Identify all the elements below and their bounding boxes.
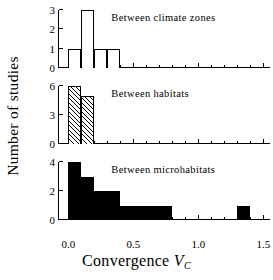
x-minor-tick <box>211 217 212 220</box>
x-minor-tick <box>172 65 173 68</box>
x-major-tick <box>68 139 69 144</box>
x-minor-tick <box>185 65 186 68</box>
x-minor-tick <box>250 65 251 68</box>
y-tick-label: 2 <box>50 24 56 35</box>
x-major-tick <box>198 63 199 68</box>
y-axis-title-text: Number of studies <box>4 56 22 176</box>
x-minor-tick <box>185 141 186 144</box>
x-minor-tick <box>224 141 225 144</box>
panel-habitats: Between habitats 036 <box>46 86 270 154</box>
x-minor-tick <box>94 141 95 144</box>
y-tick-label: 1 <box>50 43 56 54</box>
x-minor-tick <box>159 65 160 68</box>
x-major-tick <box>133 215 134 220</box>
panel-caption: Between habitats <box>111 88 189 99</box>
x-minor-tick <box>172 141 173 144</box>
x-minor-tick <box>250 217 251 220</box>
x-tick-label: 0.5 <box>127 238 141 250</box>
x-minor-tick <box>237 141 238 144</box>
histogram-figure: Number of studies Between climate zones … <box>0 0 273 280</box>
panel-caption: Between microhabitats <box>111 164 215 175</box>
x-major-tick <box>263 63 264 68</box>
x-minor-tick <box>146 217 147 220</box>
x-minor-tick <box>94 217 95 220</box>
y-tick-label: 0 <box>50 215 56 226</box>
y-tick <box>59 28 63 29</box>
x-minor-tick <box>107 65 108 68</box>
histogram-bar <box>68 86 81 144</box>
x-major-tick <box>198 139 199 144</box>
x-minor-tick <box>120 65 121 68</box>
x-minor-tick <box>120 141 121 144</box>
x-minor-tick <box>211 141 212 144</box>
x-minor-tick <box>81 217 82 220</box>
x-axis-subscript: C <box>184 260 191 271</box>
x-minor-tick <box>107 217 108 220</box>
histogram-bar <box>81 177 94 221</box>
histogram-bar <box>94 191 120 220</box>
y-tick-label: 2 <box>50 186 56 197</box>
y-tick-label: 3 <box>50 5 56 16</box>
histogram-bar <box>81 10 94 68</box>
x-major-tick <box>68 63 69 68</box>
x-minor-tick <box>172 217 173 220</box>
y-tick <box>59 114 63 115</box>
x-tick-label: 0.0 <box>62 238 76 250</box>
x-minor-tick <box>185 217 186 220</box>
x-minor-tick <box>81 141 82 144</box>
x-minor-tick <box>237 65 238 68</box>
y-tick-label: 6 <box>50 81 56 92</box>
panel-microhabitats: Between microhabitats 024 <box>46 162 270 230</box>
y-tick-label: 4 <box>50 157 56 168</box>
histogram-bar <box>81 96 94 144</box>
panel-climate-zones: Between climate zones 0123 <box>46 10 270 78</box>
y-tick-label: 0 <box>50 63 56 74</box>
x-minor-tick <box>120 217 121 220</box>
x-tick-label: 1.5 <box>257 238 271 250</box>
y-tick-label: 3 <box>50 110 56 121</box>
x-axis-title: Convergence VC <box>0 252 273 271</box>
x-minor-tick <box>146 65 147 68</box>
x-major-tick <box>263 215 264 220</box>
x-minor-tick <box>211 65 212 68</box>
x-minor-tick <box>159 217 160 220</box>
x-minor-tick <box>224 65 225 68</box>
x-minor-tick <box>250 141 251 144</box>
y-tick <box>59 161 63 162</box>
x-minor-tick <box>81 65 82 68</box>
x-minor-tick <box>224 217 225 220</box>
x-minor-tick <box>94 65 95 68</box>
y-tick-label: 0 <box>50 139 56 150</box>
histogram-bar <box>107 49 120 68</box>
x-major-tick <box>263 139 264 144</box>
x-axis-symbol: V <box>174 252 184 269</box>
x-major-tick <box>198 215 199 220</box>
histogram-bar <box>94 49 107 68</box>
x-major-tick <box>68 215 69 220</box>
y-tick <box>59 9 63 10</box>
histogram-bar <box>237 206 250 221</box>
y-tick <box>59 48 63 49</box>
y-tick <box>59 85 63 86</box>
x-minor-tick <box>159 141 160 144</box>
x-major-tick <box>133 63 134 68</box>
y-tick <box>59 190 63 191</box>
histogram-bar <box>68 49 81 68</box>
x-axis-title-text: Convergence <box>82 252 169 269</box>
panel-caption: Between climate zones <box>111 12 215 23</box>
x-minor-tick <box>107 141 108 144</box>
x-tick-label: 1.0 <box>192 238 206 250</box>
x-major-tick <box>133 139 134 144</box>
x-minor-tick <box>146 141 147 144</box>
x-minor-tick <box>237 217 238 220</box>
y-axis-title: Number of studies <box>0 0 26 232</box>
histogram-bar <box>68 162 81 220</box>
